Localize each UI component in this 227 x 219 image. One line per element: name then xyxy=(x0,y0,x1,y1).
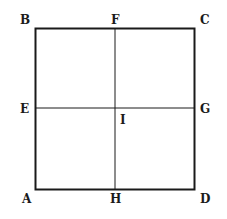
label-h: H xyxy=(110,192,121,206)
label-i: I xyxy=(120,113,126,127)
label-e: E xyxy=(20,102,29,116)
label-f: F xyxy=(111,13,120,27)
label-c: C xyxy=(200,13,210,27)
label-g: G xyxy=(200,102,210,116)
label-a: A xyxy=(21,192,32,206)
label-d: D xyxy=(200,192,210,206)
square-diagram: B F C E G I A H D xyxy=(0,0,227,219)
label-b: B xyxy=(20,13,30,27)
